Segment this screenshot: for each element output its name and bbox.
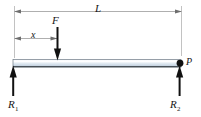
- label-load-position: x: [31, 30, 35, 40]
- dimension-arrowhead-right-span: [175, 9, 182, 13]
- beam-diagram: L x F P R1 R2: [0, 0, 201, 117]
- label-applied-load: F: [52, 15, 59, 26]
- label-point-p: P: [186, 57, 192, 67]
- dimension-arrowhead-right-offset: [51, 36, 58, 40]
- load-arrowhead: [54, 49, 61, 61]
- label-reaction-left-base: R: [8, 98, 15, 110]
- dimension-arrowhead-left-offset: [14, 36, 21, 40]
- label-reaction-right-base: R: [170, 98, 177, 110]
- beam-body: [13, 60, 181, 67]
- label-reaction-left-subscript: 1: [15, 105, 18, 112]
- dimension-arrowhead-left-span: [14, 9, 21, 13]
- point-p-marker: [177, 60, 184, 67]
- label-reaction-right-subscript: 2: [177, 105, 180, 112]
- label-reaction-right: R2: [170, 99, 180, 110]
- label-span-length: L: [95, 3, 101, 14]
- label-reaction-left: R1: [8, 99, 18, 110]
